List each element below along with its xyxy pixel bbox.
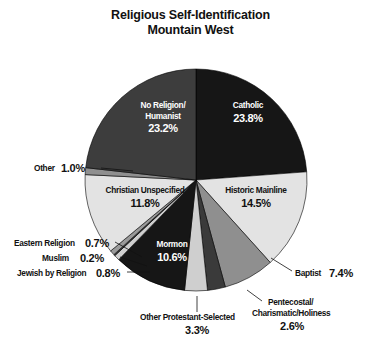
pie-chart-figure: Religious Self-Identification Mountain W… (0, 0, 381, 350)
slice-label-other-protestant-value: 3.3% (185, 324, 209, 336)
slice-label-jewish-name: Jewish by Religion (17, 268, 87, 278)
slice-label-jewish-value: 0.8% (96, 267, 120, 279)
slice-label-christian-unspecified-value: 11.8% (130, 197, 160, 209)
slice-label-pentecostal-name-1: Pentecostal/ (268, 297, 314, 307)
slice-label-historic-mainline-value: 14.5% (241, 197, 271, 209)
slice-label-christian-unspecified-name: Christian Unspecified (106, 185, 185, 195)
slice-label-baptist-value: 7.4% (329, 267, 353, 279)
slice-label-eastern-religion-name: Eastern Religion (14, 238, 75, 248)
slice-label-other-protestant-name: Other Protestant-Selected (140, 312, 235, 322)
slice-label-pentecostal-name-2: Charismatic/Holiness (252, 308, 331, 318)
slice-label-other-name: Other (34, 163, 56, 173)
slice-label-no-religion-name-2: Humanist (145, 111, 181, 121)
pie-label-layer: Catholic 23.8% No Religion/ Humanist 23.… (0, 0, 381, 350)
slice-label-catholic-name: Catholic (233, 100, 264, 110)
slice-label-baptist-name: Baptist (295, 268, 322, 278)
slice-label-historic-mainline-name: Historic Mainline (225, 185, 287, 195)
slice-label-pentecostal-value: 2.6% (280, 320, 304, 332)
slice-label-muslim-value: 0.2% (80, 252, 104, 264)
slice-label-no-religion-value: 23.2% (148, 122, 178, 134)
slice-label-mormon-name: Mormon (157, 239, 188, 249)
slice-label-muslim-name: Muslim (42, 253, 69, 263)
slice-label-catholic-value: 23.8% (233, 112, 263, 124)
slice-label-eastern-religion-value: 0.7% (85, 237, 109, 249)
slice-label-mormon-value: 10.6% (157, 251, 187, 263)
slice-label-other-value: 1.0% (61, 162, 85, 174)
slice-label-no-religion-name-1: No Religion/ (141, 100, 187, 110)
